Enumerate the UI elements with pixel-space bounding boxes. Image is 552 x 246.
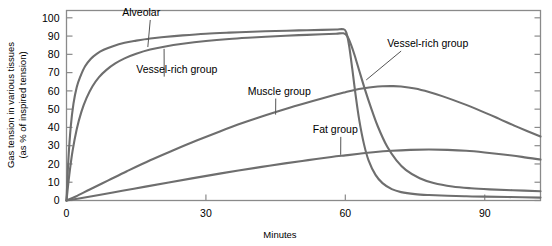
- series-annotation-muscle: Muscle group: [248, 85, 311, 97]
- y-tick-label: 50: [48, 103, 60, 115]
- x-tick-label: 30: [200, 207, 212, 219]
- y-tick-label: 20: [48, 158, 60, 170]
- gas-tension-line-chart: 0102030405060708090100 0306090 AlveolarV…: [0, 0, 552, 246]
- y-tick-label: 40: [48, 121, 60, 133]
- y-axis-title-line2: (as % of inspired tension): [17, 51, 28, 158]
- series-annotation-vessel_rich_left: Vessel-rich group: [136, 63, 217, 75]
- x-axis-title: Minutes: [263, 229, 297, 240]
- y-tick-label: 90: [48, 30, 60, 42]
- series-annotation-alveolar: Alveolar: [122, 6, 160, 18]
- y-tick-label: 100: [42, 12, 60, 24]
- y-axis-title-line1: Gas tension in various tissues: [5, 42, 16, 168]
- x-tick-label: 90: [479, 207, 491, 219]
- y-tick-label: 70: [48, 66, 60, 78]
- x-tick-label: 0: [64, 207, 70, 219]
- series-annotation-vessel_rich_right: Vessel-rich group: [387, 37, 468, 49]
- y-tick-label: 60: [48, 85, 60, 97]
- x-tick-label: 60: [339, 207, 351, 219]
- y-tick-label: 80: [48, 48, 60, 60]
- chart-figure: 0102030405060708090100 0306090 AlveolarV…: [0, 0, 552, 246]
- series-annotation-fat: Fat group: [313, 123, 358, 135]
- y-tick-label: 30: [48, 139, 60, 151]
- y-tick-label: 10: [48, 176, 60, 188]
- y-tick-label: 0: [54, 194, 60, 206]
